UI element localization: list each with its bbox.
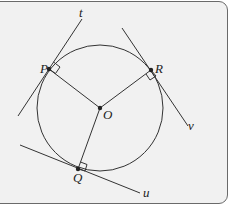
label-t: t	[79, 5, 83, 20]
point-R	[149, 68, 153, 72]
label-Q: Q	[73, 170, 83, 185]
label-P: P	[39, 61, 48, 76]
label-u: u	[143, 185, 150, 200]
circle-tangent-diagram: P R O Q t v u	[0, 0, 236, 216]
label-R: R	[154, 61, 163, 76]
point-O	[98, 106, 102, 110]
label-v: v	[188, 118, 194, 133]
label-O: O	[103, 107, 113, 122]
radius-OP	[49, 69, 100, 108]
radius-OR	[100, 70, 151, 108]
radius-OQ	[78, 108, 100, 169]
